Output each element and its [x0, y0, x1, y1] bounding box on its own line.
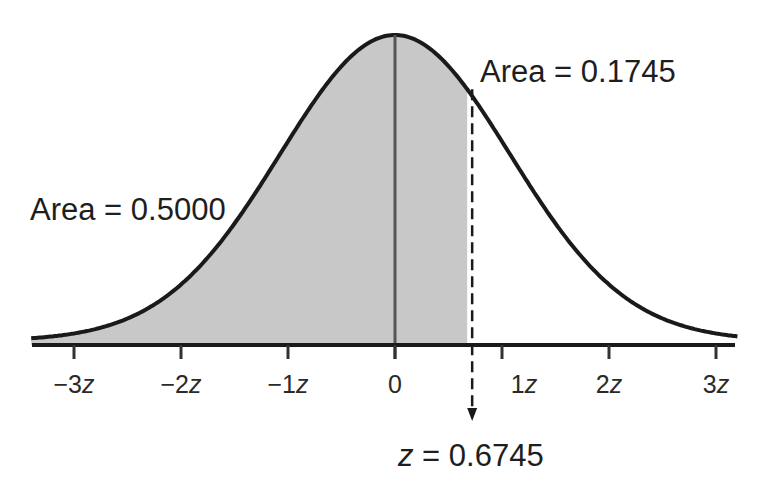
x-tick-label: −1z — [267, 370, 308, 399]
x-tick-label: 2z — [596, 370, 622, 399]
x-tick-label: 0 — [388, 370, 402, 399]
z-symbol: z — [398, 438, 414, 473]
x-tick-label: 3z — [703, 370, 729, 399]
z-value: = 0.6745 — [414, 438, 544, 473]
area-left-label: Area = 0.5000 — [30, 192, 226, 228]
x-tick-label: −3z — [53, 370, 94, 399]
z-value-label: z = 0.6745 — [398, 438, 544, 474]
area-right-label: Area = 0.1745 — [480, 54, 676, 90]
x-axis-ticks — [74, 345, 716, 359]
arrow-down-icon — [467, 408, 477, 421]
shaded-area — [31, 35, 467, 345]
x-tick-label: 1z — [511, 370, 537, 399]
x-tick-label: −2z — [160, 370, 201, 399]
